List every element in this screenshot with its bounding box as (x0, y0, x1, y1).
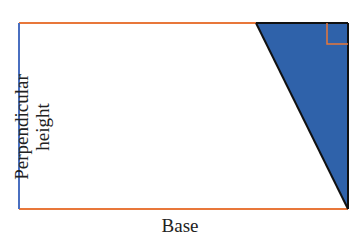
height-label-line2: height (32, 37, 53, 217)
base-label: Base (140, 216, 220, 236)
diagram-canvas (0, 0, 362, 241)
perpendicular-height-label: Perpendicular height (11, 37, 53, 217)
height-label-line1: Perpendicular (11, 37, 32, 217)
